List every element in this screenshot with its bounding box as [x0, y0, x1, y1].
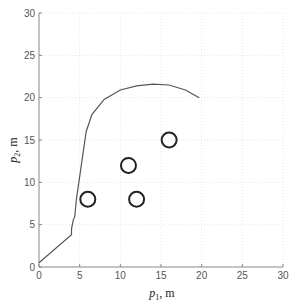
y-tick-label: 25: [24, 50, 36, 61]
x-tick-label: 30: [277, 270, 289, 281]
y-tick-label: 30: [24, 8, 36, 19]
y-tick-label: 0: [29, 262, 35, 273]
x-axis-label: p1, m: [148, 286, 175, 302]
y-tick-label: 15: [24, 135, 36, 146]
y-tick-label: 5: [29, 219, 35, 230]
x-tick-label: 15: [155, 270, 167, 281]
y-tick-labels: 051015202530: [24, 8, 36, 273]
x-tick-labels: 051015202530: [36, 270, 289, 281]
obstacle-markers: [80, 133, 176, 207]
y-tick-label: 10: [24, 177, 36, 188]
obstacle-circle-marker: [121, 158, 136, 173]
x-tick-label: 10: [115, 270, 127, 281]
y-tick-label: 20: [24, 92, 36, 103]
trajectory-line: [39, 84, 199, 263]
x-tick-label: 5: [77, 270, 83, 281]
x-tick-label: 25: [237, 270, 249, 281]
x-tick-label: 0: [36, 270, 42, 281]
trajectory-chart: 051015202530 051015202530 p1, m p2, m: [0, 0, 299, 304]
x-tick-label: 20: [196, 270, 208, 281]
y-axis-label: p2, m: [6, 137, 22, 164]
obstacle-circle-marker: [80, 192, 95, 207]
obstacle-circle-marker: [129, 192, 144, 207]
